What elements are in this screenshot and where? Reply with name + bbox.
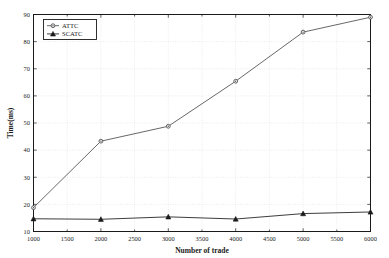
x-tick-label: 5500 (330, 235, 343, 242)
chart-legend: ATTCSCATC (44, 20, 97, 40)
x-tick-label: 2000 (95, 235, 108, 242)
y-tick-label: 20 (24, 201, 30, 208)
y-tick-label: 60 (24, 92, 30, 99)
x-tick-label: 6000 (364, 235, 377, 242)
y-tick-label: 40 (24, 146, 30, 153)
x-axis-label: Number of trade (175, 246, 229, 255)
data-point-marker (32, 206, 36, 210)
data-point-marker (369, 15, 373, 19)
y-tick-label: 90 (24, 11, 30, 18)
x-tick-label: 5000 (297, 235, 310, 242)
x-tick-label: 1500 (61, 235, 74, 242)
data-point-marker (51, 24, 55, 28)
y-tick-label: 50 (24, 119, 30, 126)
data-point-marker (301, 30, 305, 34)
x-tick-label: 4000 (229, 235, 242, 242)
x-tick-label: 1000 (27, 235, 40, 242)
x-tick-label: 4500 (263, 235, 276, 242)
data-point-marker (99, 139, 103, 143)
data-point-marker (234, 79, 238, 83)
x-tick-label: 2500 (128, 235, 141, 242)
legend-label: SCATC (62, 30, 83, 37)
y-tick-label: 80 (24, 38, 30, 45)
legend-label: ATTC (62, 22, 79, 29)
line-chart: 1000150020002500300035004000450050005500… (0, 0, 389, 258)
y-tick-label: 30 (24, 174, 30, 181)
y-tick-label: 70 (24, 65, 30, 72)
y-tick-label: 10 (24, 228, 30, 235)
data-point-marker (166, 124, 170, 128)
x-tick-label: 3000 (162, 235, 175, 242)
chart-figure: 1000150020002500300035004000450050005500… (0, 0, 389, 258)
y-tick-labels: 102030405060708090 (24, 11, 30, 235)
y-axis-label: Time(ms) (6, 107, 15, 138)
x-tick-label: 3500 (196, 235, 209, 242)
